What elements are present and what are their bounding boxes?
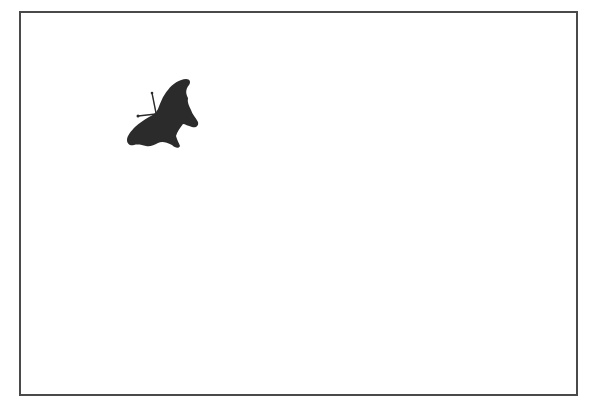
butterfly-icon [0, 0, 594, 417]
canvas [0, 0, 594, 417]
